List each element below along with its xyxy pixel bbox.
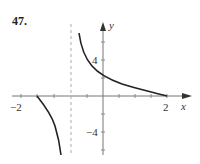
x-tick-label-neg: −2	[10, 101, 22, 113]
x-axis-label: x	[180, 100, 186, 112]
x-tick-label-pos: 2	[163, 101, 169, 113]
y-tick-label-pos: 4	[92, 54, 98, 66]
y-axis-arrow-icon	[100, 22, 106, 31]
x-axis-arrow-icon	[182, 93, 192, 99]
function-graph: −2 2 x y 4 −4	[0, 0, 200, 164]
y-axis-label: y	[108, 19, 114, 31]
curve-left-branch	[37, 96, 61, 155]
y-tick-label-neg: −4	[86, 126, 98, 138]
y-axis	[100, 22, 106, 155]
